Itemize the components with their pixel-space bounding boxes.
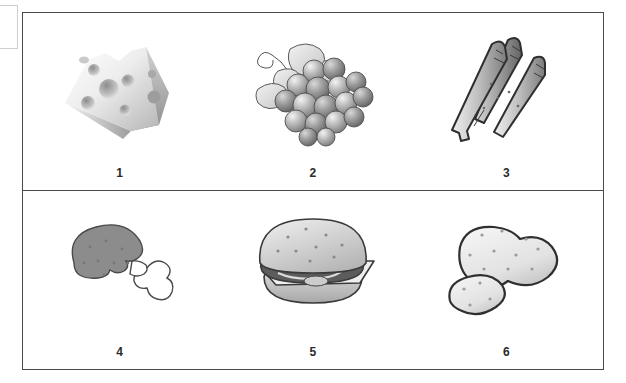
cheese-wedge-icon xyxy=(23,13,216,167)
cell-label-6: 6 xyxy=(503,346,510,369)
cell-label-3: 3 xyxy=(503,167,510,190)
chicken-drumstick-icon xyxy=(23,191,216,346)
asparagus-icon xyxy=(410,13,603,167)
corner-scrap-rectangle xyxy=(0,5,18,49)
grid-cell-5[interactable]: 5 xyxy=(216,191,409,369)
worksheet-frame: 1 xyxy=(22,12,604,370)
grid-cell-3[interactable]: 3 xyxy=(410,13,603,190)
cell-label-4: 4 xyxy=(116,346,123,369)
hamburger-icon xyxy=(216,191,409,346)
grapes-icon xyxy=(216,13,409,167)
grid-cell-4[interactable]: 4 xyxy=(23,191,216,369)
grid-row-bottom: 4 xyxy=(23,191,603,369)
grid-row-top: 1 xyxy=(23,13,603,191)
cell-label-5: 5 xyxy=(310,346,317,369)
cell-label-2: 2 xyxy=(310,167,317,190)
grid-cell-1[interactable]: 1 xyxy=(23,13,216,190)
grid-cell-2[interactable]: 2 xyxy=(216,13,409,190)
cell-label-1: 1 xyxy=(116,167,123,190)
grid-cell-6[interactable]: 6 xyxy=(410,191,603,369)
potatoes-icon xyxy=(410,191,603,346)
